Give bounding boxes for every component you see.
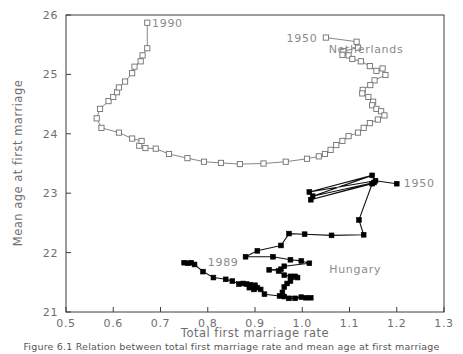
- data-point-marker: [307, 261, 312, 266]
- data-point-marker: [99, 125, 104, 130]
- data-series-layer: [94, 20, 399, 301]
- data-point-marker: [153, 146, 158, 151]
- figure-caption: Figure 6.1 Relation between total first …: [0, 341, 463, 352]
- data-point-marker: [211, 275, 216, 280]
- x-axis-title: Total first marriage rate: [180, 326, 329, 340]
- chart-annotation: Netherlands: [329, 43, 404, 56]
- data-point-marker: [288, 274, 293, 279]
- y-tick-label: 26: [43, 9, 58, 22]
- data-point-marker: [122, 79, 127, 84]
- data-point-marker: [283, 159, 288, 164]
- data-point-marker: [293, 296, 298, 301]
- data-point-marker: [271, 254, 276, 259]
- data-point-marker: [262, 292, 267, 297]
- x-tick-label: 0.6: [104, 317, 123, 330]
- data-point-marker: [394, 181, 399, 186]
- data-point-marker: [145, 46, 150, 51]
- data-point-marker: [299, 295, 304, 300]
- data-point-marker: [166, 151, 171, 156]
- data-point-marker: [237, 282, 242, 287]
- data-point-marker: [308, 295, 313, 300]
- data-point-marker: [380, 66, 385, 71]
- data-point-marker: [350, 56, 355, 61]
- data-point-marker: [223, 277, 228, 282]
- y-tick-label: 21: [43, 306, 58, 319]
- x-tick-label: 1.2: [387, 317, 406, 330]
- marriage-rate-scatter-chart: 0.50.60.70.80.91.01.11.21.3 212223242526…: [0, 0, 463, 354]
- data-point-marker: [355, 130, 360, 135]
- data-point-marker: [138, 59, 143, 64]
- chart-annotation: 1990: [152, 17, 183, 30]
- data-point-marker: [130, 71, 135, 76]
- data-point-marker: [308, 197, 313, 202]
- y-tick-label: 23: [43, 187, 58, 200]
- x-tick-label: 1.1: [340, 317, 359, 330]
- series-netherlands: [94, 20, 388, 167]
- y-axis-ticks: 212223242526: [43, 9, 71, 319]
- y-axis-title: Mean age at first marriage: [11, 80, 25, 247]
- series-hungary: [182, 173, 399, 301]
- data-point-marker: [322, 151, 327, 156]
- data-point-marker: [367, 121, 372, 126]
- x-tick-label: 1.3: [434, 317, 453, 330]
- data-point-marker: [182, 260, 187, 265]
- x-tick-label: 0.5: [56, 317, 75, 330]
- data-point-marker: [143, 145, 148, 150]
- data-point-marker: [367, 63, 372, 68]
- data-point-marker: [261, 161, 266, 166]
- data-point-marker: [383, 72, 388, 77]
- data-point-marker: [374, 68, 379, 73]
- data-point-marker: [295, 275, 300, 280]
- data-point-marker: [279, 243, 284, 248]
- data-point-marker: [253, 283, 258, 288]
- data-point-marker: [97, 106, 102, 111]
- data-point-marker: [139, 138, 144, 143]
- data-point-marker: [267, 267, 272, 272]
- data-point-marker: [276, 269, 281, 274]
- data-point-marker: [375, 117, 380, 122]
- data-point-marker: [370, 181, 375, 186]
- data-point-marker: [282, 285, 287, 290]
- chart-annotation: 1950: [287, 32, 318, 45]
- data-point-marker: [277, 294, 282, 299]
- annotations-layer: 19901950Netherlands19501989Hungary: [152, 17, 435, 276]
- data-point-marker: [185, 156, 190, 161]
- data-point-marker: [243, 254, 248, 259]
- data-point-marker: [304, 295, 309, 300]
- data-point-marker: [237, 161, 242, 166]
- data-point-marker: [302, 232, 307, 237]
- data-point-marker: [340, 138, 345, 143]
- data-point-marker: [116, 85, 121, 90]
- data-point-marker: [370, 173, 375, 178]
- data-point-marker: [361, 232, 366, 237]
- data-point-marker: [361, 125, 366, 130]
- data-point-marker: [382, 113, 387, 118]
- data-point-marker: [116, 130, 121, 135]
- data-point-marker: [304, 156, 309, 161]
- data-point-marker: [130, 136, 135, 141]
- data-point-marker: [230, 279, 235, 284]
- data-point-marker: [288, 257, 293, 262]
- data-point-marker: [94, 116, 99, 121]
- data-point-marker: [201, 159, 206, 164]
- data-point-marker: [218, 160, 223, 165]
- data-point-marker: [357, 218, 362, 223]
- data-point-marker: [368, 82, 373, 87]
- y-tick-label: 25: [43, 68, 58, 81]
- data-point-marker: [287, 296, 292, 301]
- data-point-marker: [255, 248, 260, 253]
- data-point-marker: [145, 20, 150, 25]
- x-tick-label: 0.7: [151, 317, 170, 330]
- data-point-marker: [282, 294, 287, 299]
- data-point-marker: [299, 259, 304, 264]
- chart-annotation: 1950: [404, 177, 435, 190]
- data-point-marker: [334, 142, 339, 147]
- data-point-marker: [329, 233, 334, 238]
- chart-annotation: Hungary: [329, 263, 381, 276]
- data-point-marker: [140, 53, 145, 58]
- data-point-marker: [282, 273, 287, 278]
- data-point-marker: [328, 147, 333, 152]
- data-point-marker: [323, 35, 328, 40]
- data-point-marker: [287, 231, 292, 236]
- chart-annotation: 1989: [208, 256, 239, 269]
